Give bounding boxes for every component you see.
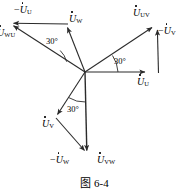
label-u-wu: UWU [0, 28, 15, 39]
angle-label-right: 30° [114, 57, 126, 66]
vector-neg-u-w [56, 118, 85, 151]
vector-u-w [68, 28, 86, 73]
label-neg-u-u: −UU [14, 5, 32, 16]
label-u-v: UV [42, 119, 54, 130]
label-u-uv: UUV [133, 8, 150, 19]
vector-u-vw [85, 72, 87, 151]
label-u-vw: UVW [97, 155, 115, 166]
vector-neg-u-u [14, 23, 69, 24]
figure-caption: 图 6-4 [0, 178, 189, 189]
angle-label-lower: 30° [67, 105, 79, 114]
figure-container: −UU UWU UW UUV −UV UU UV −UW UVW 30° 30°… [0, 0, 189, 191]
vector-u-wu [14, 26, 86, 72]
label-neg-u-v: −UV [158, 26, 176, 37]
line-vectors [14, 26, 153, 151]
angle-arc-lower [69, 98, 86, 103]
label-u-w: UW [69, 14, 82, 25]
angle-label-upper-left: 30° [46, 37, 58, 46]
label-u-u: UU [137, 77, 149, 88]
angle-arcs [60, 51, 118, 103]
label-neg-u-w: −UW [50, 155, 69, 166]
